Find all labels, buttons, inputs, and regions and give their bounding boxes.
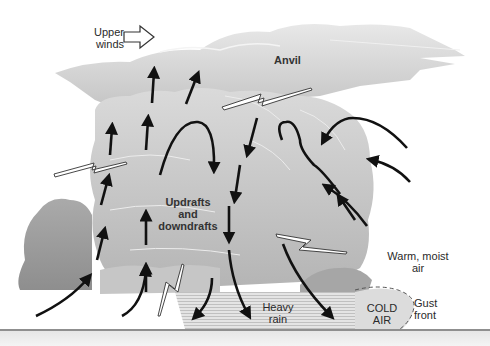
label-heavy-rain: Heavy rain — [258, 301, 298, 325]
label-gust-front-line2: front — [414, 309, 454, 321]
label-upper-winds-line1: Upper — [82, 26, 124, 38]
label-upper-winds: Upper winds — [82, 26, 124, 50]
label-anvil: Anvil — [274, 54, 314, 66]
label-cold-air-line1: COLD — [360, 302, 404, 314]
thunderstorm-diagram: Upper winds Anvil Updrafts and downdraft… — [0, 0, 490, 346]
label-cold-air: COLD AIR — [360, 302, 404, 326]
label-updrafts-downdrafts: Updrafts and downdrafts — [158, 196, 218, 232]
label-anvil-text: Anvil — [274, 54, 301, 66]
diagram-canvas — [0, 0, 490, 346]
upper-winds-arrow-icon — [124, 26, 154, 48]
label-heavy-rain-line2: rain — [258, 313, 298, 325]
label-warm-air-line1: Warm, moist — [382, 250, 454, 262]
label-warm-moist-air: Warm, moist air — [382, 250, 454, 274]
left-cloud-mass — [18, 199, 92, 290]
label-heavy-rain-line1: Heavy — [258, 301, 298, 313]
label-gust-front-line1: Gust — [414, 297, 454, 309]
label-updrafts-line1: Updrafts — [158, 196, 218, 208]
label-updrafts-line3: downdrafts — [158, 220, 218, 232]
label-warm-air-line2: air — [382, 262, 454, 274]
label-gust-front: Gust front — [414, 297, 454, 321]
label-cold-air-line2: AIR — [360, 314, 404, 326]
ground-band — [0, 331, 490, 346]
label-updrafts-line2: and — [158, 208, 218, 220]
label-upper-winds-line2: winds — [82, 38, 124, 50]
